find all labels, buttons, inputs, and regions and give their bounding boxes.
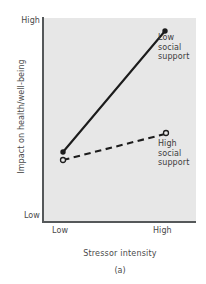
stress-buffering-figure: High Low Low High Impact on health/well-… — [0, 0, 206, 284]
y-axis-tick-low: Low — [24, 211, 40, 220]
series-label-low-line3: support — [158, 52, 189, 62]
series-label-low-line1: Low — [158, 33, 189, 43]
data-point-high-support-high-stressor — [164, 131, 169, 136]
y-axis-title: Impact on health/well-being — [17, 42, 26, 192]
x-axis-title: Stressor intensity — [44, 249, 196, 258]
series-label-high-line2: social — [158, 149, 189, 159]
series-label-high-line1: High — [158, 139, 189, 149]
series-label-high-social-support: High social support — [158, 139, 189, 168]
series-label-low-social-support: Low social support — [158, 33, 189, 62]
x-axis-tick-high: High — [153, 226, 172, 235]
y-axis-tick-high: High — [21, 16, 40, 25]
series-line-low-social-support — [63, 31, 165, 152]
series-line-high-social-support — [63, 134, 165, 160]
data-point-low-support-low-stressor — [60, 149, 65, 154]
series-label-high-line3: support — [158, 158, 189, 168]
figure-caption: (a) — [44, 266, 196, 275]
series-label-low-line2: social — [158, 43, 189, 53]
x-axis-tick-low: Low — [52, 226, 68, 235]
data-point-high-support-low-stressor — [61, 158, 66, 163]
